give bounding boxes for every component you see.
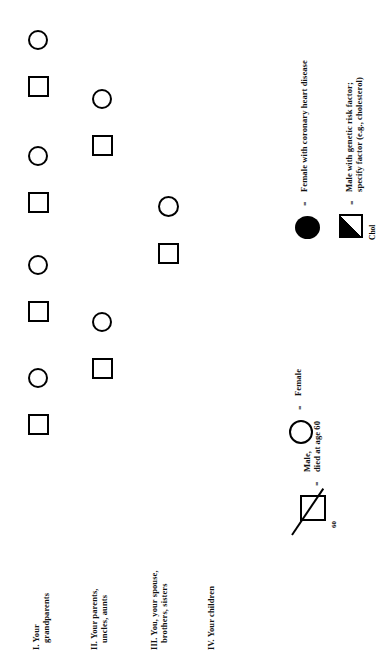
legend-age-marker-60: 60 <box>330 521 338 528</box>
pedigree-circle-grandmother-c <box>28 255 48 275</box>
pedigree-connector <box>0 0 2 10</box>
legend-equals-male-deceased: = <box>313 481 322 486</box>
pedigree-circle-grandmother-d <box>28 368 48 388</box>
pedigree-circle-mother-upper <box>92 89 112 109</box>
generation-label-2-line2: uncles, aunts <box>100 588 110 650</box>
pedigree-circle-grandmother-a <box>28 30 48 50</box>
generation-label-2-line1: II. Your parents, <box>89 588 99 650</box>
pedigree-connector <box>0 402 2 412</box>
sibship-spine-gen3-lower <box>0 602 2 662</box>
pedigree-connector <box>0 444 2 460</box>
legend-annotation-chol: Chol <box>368 225 377 240</box>
legend-symbol-half-filled-square <box>339 214 363 238</box>
legend-label-female-chd-line1: Female with coronary heart disease <box>299 60 309 192</box>
pedigree-square-father-upper <box>92 135 113 156</box>
pedigree-mating-line <box>0 10 54 12</box>
sibship-spine <box>0 112 2 182</box>
pedigree-connector <box>0 40 2 56</box>
pedigree-connector <box>0 96 2 112</box>
pedigree-square-grandfather-a <box>28 76 49 97</box>
legend-label-male-risk-line1: Male with genetic risk factor; <box>344 82 354 192</box>
legend-label-female-line1: Female <box>293 369 303 396</box>
pedigree-square-grandfather-b <box>28 192 49 213</box>
generation-label-1-line2: grandparents <box>42 593 52 650</box>
sibship-spine <box>0 186 2 254</box>
pedigree-mating-line <box>0 442 56 444</box>
sibship-spine-gen3-upper <box>0 462 2 594</box>
pedigree-circle-spouse <box>158 196 179 217</box>
legend-label-male-deceased-line1: Male, <box>302 451 312 472</box>
pedigree-mating-line <box>0 66 54 68</box>
generation-label-2: II. Your parents, uncles, aunts <box>90 588 110 650</box>
legend-label-male-deceased: Male, died at age 60 <box>303 421 323 472</box>
legend-equals-male-risk: = <box>348 200 357 205</box>
pedigree-connector <box>0 28 2 38</box>
generation-label-4-line1: IV. Your children <box>206 586 216 650</box>
pedigree-page: I. Your grandparents II. Your parents, u… <box>0 0 386 662</box>
legend-equals-female: = <box>296 405 305 410</box>
pedigree-connector <box>0 414 2 430</box>
pedigree-connector <box>0 56 2 66</box>
generation-label-3: III. You, your spouse, brothers, sisters <box>150 570 170 650</box>
sibship-spine <box>0 258 2 326</box>
pedigree-connector <box>0 84 2 94</box>
pedigree-circle-grandmother-b <box>28 146 48 166</box>
legend-label-female-chd: Female with coronary heart disease <box>300 60 310 192</box>
sibship-spine <box>0 330 2 398</box>
pedigree-square-father-lower <box>92 358 113 379</box>
generation-label-1-line1: I. Your <box>31 624 41 650</box>
legend-label-male-deceased-line2: died at age 60 <box>313 421 323 472</box>
pedigree-square-self <box>158 243 179 264</box>
legend-label-male-risk: Male with genetic risk factor; specify f… <box>345 77 365 192</box>
legend-equals-female-chd: = <box>301 201 310 206</box>
pedigree-connector <box>0 12 2 28</box>
pedigree-connector <box>0 68 2 84</box>
generation-label-3-line1: III. You, your spouse, <box>149 570 159 650</box>
generation-label-4: IV. Your children <box>207 586 217 650</box>
legend-label-male-risk-line2: specify factor (e.g., cholesterol) <box>355 77 365 192</box>
pedigree-square-grandfather-d <box>28 414 49 435</box>
legend-symbol-filled-circle <box>295 216 320 239</box>
legend-label-female: Female <box>294 369 304 396</box>
generation-label-3-line2: brothers, sisters <box>160 570 170 650</box>
pedigree-square-grandfather-c <box>28 301 49 322</box>
pedigree-circle-mother-lower <box>92 312 112 332</box>
pedigree-connector <box>0 432 2 442</box>
generation-label-1: I. Your grandparents <box>32 593 52 650</box>
